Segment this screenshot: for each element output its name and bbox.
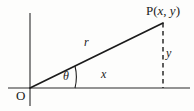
radius-line — [30, 23, 163, 88]
angle-arc — [75, 66, 76, 88]
point-label-prefix: P( — [146, 3, 158, 18]
polar-coordinate-diagram: P(x, y) O r x y θ — [0, 0, 194, 111]
origin-label: O — [16, 89, 25, 102]
radius-label: r — [84, 36, 89, 48]
angle-label: θ — [63, 70, 69, 82]
vertical-leg-label: y — [166, 47, 171, 59]
horizontal-leg-label: x — [101, 68, 106, 80]
point-label-suffix: ) — [176, 3, 180, 18]
point-label: P(x, y) — [146, 4, 180, 17]
